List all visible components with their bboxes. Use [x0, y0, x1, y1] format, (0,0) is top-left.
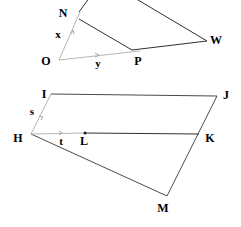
edge-top-w: [128, 0, 207, 41]
vertex-label-n: N: [59, 6, 68, 20]
vertex-label-h: H: [13, 131, 23, 145]
geometry-diagram: N W O P x y I: [0, 0, 241, 227]
vertex-label-l: L: [80, 134, 88, 148]
vertex-label-p: P: [134, 54, 141, 68]
edge-j-m: [167, 96, 217, 196]
edge-w-p: [132, 41, 207, 50]
lower-figure-group: I J H K L M s t: [13, 87, 229, 215]
vertex-label-m: M: [157, 201, 168, 215]
edge-p-n: [79, 19, 132, 50]
vertex-label-j: J: [223, 88, 229, 102]
vertex-label-k: K: [205, 131, 215, 145]
variable-label-s: s: [30, 105, 35, 117]
edge-m-h: [31, 134, 167, 196]
segment-h-l: [31, 133, 85, 134]
variable-label-t: t: [59, 135, 63, 147]
variable-label-y: y: [95, 57, 101, 69]
vertex-label-w: W: [210, 33, 222, 47]
diagram-canvas: N W O P x y I: [0, 0, 241, 227]
edge-n-top: [79, 0, 98, 12]
edge-i-j: [51, 94, 217, 96]
edge-i-h-tick-icon: [39, 116, 43, 120]
variable-label-x: x: [55, 28, 61, 40]
segment-l-k: [85, 133, 199, 134]
vertex-label-i: I: [42, 87, 47, 101]
upper-figure-group: N W O P x y: [41, 0, 222, 69]
vertex-label-o: O: [41, 54, 50, 68]
